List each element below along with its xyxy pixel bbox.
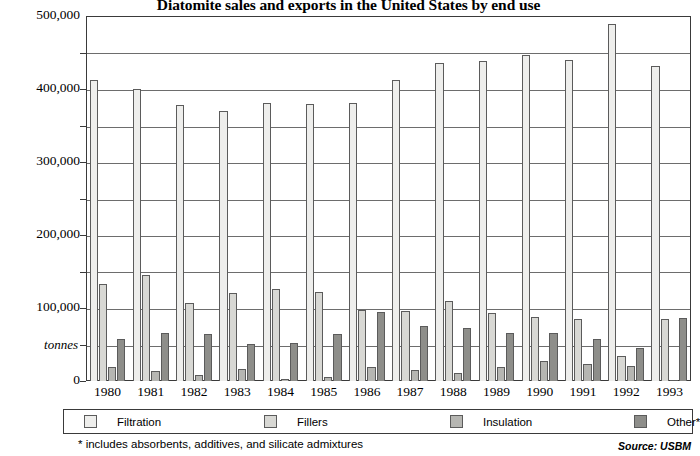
x-axis-label-1986: 1986 [345,384,388,400]
gridline [87,309,690,310]
x-axis-label-1992: 1992 [605,384,648,400]
source-label: Source: USBM [618,440,691,452]
x-axis-label-1981: 1981 [129,384,172,400]
y-axis-unit-label: tonnes [44,337,78,353]
legend-item-filtration[interactable]: Filtration [84,410,161,433]
x-axis-label-1989: 1989 [475,384,518,400]
chart-title: Diatomite sales and exports in the Unite… [0,0,697,14]
legend-label: Other* [667,416,700,428]
x-axis-label-1991: 1991 [561,384,604,400]
x-axis-label-1985: 1985 [302,384,345,400]
gridline [87,236,690,237]
legend-item-other[interactable]: Other* [634,410,700,433]
legend-label: Fillers [297,416,328,428]
gridline [87,90,690,91]
x-axis-label-1988: 1988 [432,384,475,400]
gridline [87,346,690,347]
legend-item-fillers[interactable]: Fillers [264,410,328,433]
legend-item-insulation[interactable]: Insulation [450,410,532,433]
gridline [87,127,690,128]
x-axis-label-1983: 1983 [216,384,259,400]
x-axis-label-1980: 1980 [86,384,129,400]
y-axis-tick-label: 100,000 [2,300,80,314]
legend-swatch-icon [450,415,463,428]
gridline [87,163,690,164]
plot-area [86,16,691,381]
gridline [87,53,690,54]
x-axis-label-1990: 1990 [518,384,561,400]
chart-legend: FiltrationFillersInsulationOther* [63,409,693,434]
legend-swatch-icon [264,415,277,428]
footnote: * includes absorbents, additives, and si… [78,438,363,450]
x-axis-label-1987: 1987 [389,384,432,400]
y-axis-tick [80,381,86,382]
y-axis-tick-label: 300,000 [2,154,80,168]
x-axis-label-1993: 1993 [648,384,691,400]
x-axis-label-1982: 1982 [172,384,215,400]
legend-label: Insulation [483,416,532,428]
y-axis: 0100,000200,000300,000400,000500,000tonn… [0,0,80,400]
legend-swatch-icon [634,415,647,428]
y-axis-tick-label: 200,000 [2,227,80,241]
y-axis-tick-label: 0 [2,373,80,387]
legend-swatch-icon [84,415,97,428]
legend-label: Filtration [117,416,161,428]
y-axis-tick-label: 500,000 [2,8,80,22]
gridline [87,272,690,273]
x-axis-label-1984: 1984 [259,384,302,400]
y-axis-tick-label: 400,000 [2,81,80,95]
x-axis-labels: 1980198119821983198419851986198719881989… [86,384,691,404]
gridline [87,200,690,201]
